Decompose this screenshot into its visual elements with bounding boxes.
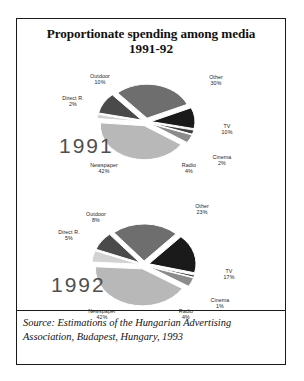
slice-label-other: Other23% (182, 203, 222, 215)
slice-label-percent: 23% (182, 209, 222, 215)
slice-label-outdoor: Outdoor10% (80, 73, 120, 85)
slice-label-radio: Radio4% (169, 162, 209, 174)
slice-label-name: Cinema (211, 297, 230, 303)
slice-label-percent: 17% (209, 274, 249, 280)
slice-label-name: TV (224, 123, 231, 129)
pie-chart-1991: Other30%TV10%Cinema2%Radio4%Newspaper42%… (17, 56, 285, 189)
slice-label-name: Direct R. (62, 95, 84, 101)
chart-title-line-2: 1991-92 (17, 41, 285, 56)
slice-label-tv: TV17% (209, 268, 249, 280)
slice-label-percent: 8% (76, 217, 116, 223)
slice-label-outdoor: Outdoor8% (76, 211, 116, 223)
source-line-2: Association, Budapest, Hungary, 1993 (23, 330, 279, 344)
year-label-1992: 1992 (51, 273, 106, 297)
pie-chart-1992: Other23%TV17%Cinema1%Radio4%Newspaper42%… (17, 189, 285, 329)
source-divider (17, 310, 285, 311)
chart-title-line-1: Proportionate spending among media (17, 26, 285, 41)
slice-label-percent: 10% (207, 129, 247, 135)
figure-frame: Proportionate spending among media 1991-… (16, 18, 286, 365)
slice-label-name: Cinema (213, 154, 232, 160)
pie-1991-graphic: Other30%TV10%Cinema2%Radio4%Newspaper42%… (26, 70, 276, 186)
pie-1992-graphic: Other23%TV17%Cinema1%Radio4%Newspaper42%… (26, 211, 276, 333)
slice-label-name: Other (195, 203, 209, 209)
year-label-1991: 1991 (59, 134, 114, 158)
chart-title: Proportionate spending among media 1991-… (17, 19, 285, 56)
slice-label-percent: 4% (169, 168, 209, 174)
slice-label-newspaper: Newspaper42% (84, 162, 124, 174)
source-note: Source: Estimations of the Hungarian Adv… (23, 316, 279, 343)
slice-label-percent: 42% (84, 168, 124, 174)
slice-label-percent: 1% (200, 303, 240, 309)
slice-label-other: Other30% (196, 74, 236, 86)
slice-label-percent: 5% (49, 235, 89, 241)
slice-label-cinema: Cinema1% (200, 297, 240, 309)
slice-label-name: TV (226, 268, 233, 274)
slice-label-name: Other (209, 74, 223, 80)
slice-label-name: Newspaper (90, 162, 118, 168)
source-line-1: Source: Estimations of the Hungarian Adv… (23, 316, 279, 330)
slice-label-percent: 10% (80, 79, 120, 85)
slice-label-name: Direct R. (58, 229, 80, 235)
slice-label-direct-r: Direct R.2% (53, 95, 93, 107)
slice-label-name: Radio (182, 162, 196, 168)
slice-label-percent: 30% (196, 80, 236, 86)
slice-label-name: Outdoor (90, 73, 110, 79)
slice-label-tv: TV10% (207, 123, 247, 135)
slice-label-percent: 2% (53, 101, 93, 107)
slice-label-direct-r: Direct R.5% (49, 229, 89, 241)
slice-label-name: Outdoor (86, 211, 106, 217)
